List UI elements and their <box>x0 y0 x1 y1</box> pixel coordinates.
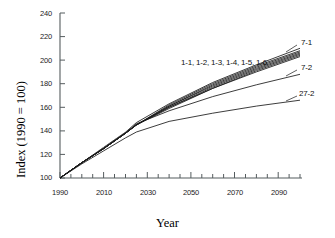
series-line-27-2 <box>60 100 300 178</box>
series-bundle-label: 1-1, 1-2, 1-3, 1-4, 1-5, 1-6 <box>181 58 267 67</box>
series-line-1-2 <box>60 52 300 178</box>
series-label-7-2: 7-2 <box>301 63 312 72</box>
series-line-1-4 <box>60 54 300 178</box>
series-line-1-5 <box>60 55 300 178</box>
series-label-7-1: 7-1 <box>301 38 312 47</box>
series-line-7-2 <box>60 74 300 178</box>
chart-figure: Index (1990 = 100) Year 240 220 200 180 … <box>0 0 335 238</box>
series-line-1-3 <box>60 53 300 178</box>
series-line-1-1 <box>60 51 300 178</box>
x-minor-ticks <box>71 174 300 178</box>
series-label-27-2: 27-2 <box>299 89 314 98</box>
y-major-ticks <box>60 13 65 178</box>
series-line-1-6 <box>60 57 300 178</box>
plot-canvas <box>0 0 335 238</box>
